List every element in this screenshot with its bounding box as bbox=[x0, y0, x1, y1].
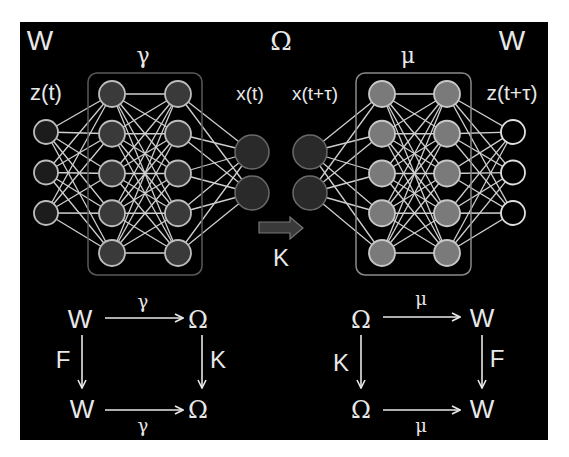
encoder-hidden-node bbox=[165, 240, 191, 266]
output-label: z(t+τ) bbox=[487, 81, 538, 104]
decoder-hidden-node bbox=[369, 240, 395, 266]
encoder-hidden-node bbox=[99, 81, 125, 107]
decoder-hidden-node bbox=[369, 161, 395, 187]
decoder-hidden-node bbox=[434, 200, 460, 226]
cd-left-left-arrow-label: F bbox=[56, 346, 71, 373]
commutative-diagram-left: W Ω W Ω γ γ F K bbox=[56, 291, 226, 436]
latent-space-label: Ω bbox=[270, 26, 292, 56]
cd-left-bottom-arrow-label: γ bbox=[138, 415, 149, 436]
latent-node bbox=[235, 176, 269, 210]
decoder-hidden-node bbox=[434, 81, 460, 107]
cd-right-top-left: Ω bbox=[351, 306, 371, 334]
encoder-hidden-node bbox=[165, 200, 191, 226]
cd-right-bottom-left: Ω bbox=[351, 396, 371, 424]
right-space-label: W bbox=[499, 25, 526, 56]
koopman-arrow-icon bbox=[259, 217, 303, 239]
encoder-hidden-node bbox=[99, 161, 125, 187]
cd-right-top-arrow-label: μ bbox=[415, 288, 427, 309]
decoder-output-node bbox=[501, 161, 525, 185]
cd-right-right-arrow-label: F bbox=[490, 345, 505, 372]
decoder-label: μ bbox=[401, 43, 415, 68]
cd-right-bottom-right: W bbox=[470, 394, 495, 424]
cd-left-bottom-right: Ω bbox=[188, 396, 208, 424]
encoder-label: γ bbox=[136, 43, 149, 68]
encoder-hidden-node bbox=[165, 81, 191, 107]
encoder-hidden-node bbox=[165, 121, 191, 147]
cd-right-bottom-arrow-label: μ bbox=[415, 415, 427, 436]
latent-node bbox=[235, 135, 269, 169]
encoder-input-node bbox=[34, 201, 58, 225]
latent-node bbox=[293, 135, 327, 169]
left-space-label: W bbox=[27, 25, 54, 56]
latent-node bbox=[293, 176, 327, 210]
encoder-input-node bbox=[34, 120, 58, 144]
decoder-hidden-node bbox=[434, 121, 460, 147]
decoder-hidden-node bbox=[369, 81, 395, 107]
decoder-output-node bbox=[501, 120, 525, 144]
encoder-hidden-node bbox=[99, 240, 125, 266]
network-edge bbox=[46, 94, 112, 213]
cd-left-bottom-left: W bbox=[70, 394, 95, 424]
encoder-hidden-node bbox=[165, 161, 191, 187]
cd-left-right-arrow-label: K bbox=[210, 346, 226, 373]
koopman-autoencoder-diagram: W γ Ω μ W z(t) x(t) x(t+τ) z(t+τ) K W Ω … bbox=[0, 0, 569, 457]
latent-out-label: x(t+τ) bbox=[292, 83, 338, 104]
network-nodes bbox=[34, 81, 525, 266]
koopman-label: K bbox=[273, 244, 289, 271]
input-label: z(t) bbox=[30, 80, 62, 105]
cd-left-top-right: Ω bbox=[188, 306, 208, 334]
decoder-hidden-node bbox=[369, 200, 395, 226]
network-edge bbox=[447, 132, 513, 253]
decoder-hidden-node bbox=[434, 161, 460, 187]
encoder-input-node bbox=[34, 161, 58, 185]
cd-left-top-arrow-label: γ bbox=[138, 291, 149, 312]
decoder-output-node bbox=[501, 201, 525, 225]
cd-right-top-right: W bbox=[470, 303, 495, 333]
cd-left-top-left: W bbox=[68, 304, 93, 334]
encoder-hidden-node bbox=[99, 121, 125, 147]
decoder-hidden-node bbox=[434, 240, 460, 266]
latent-in-label: x(t) bbox=[236, 83, 263, 104]
cd-right-left-arrow-label: K bbox=[333, 349, 349, 376]
commutative-diagram-right: Ω W Ω W μ μ K F bbox=[333, 288, 504, 436]
encoder-hidden-node bbox=[99, 200, 125, 226]
decoder-hidden-node bbox=[369, 121, 395, 147]
